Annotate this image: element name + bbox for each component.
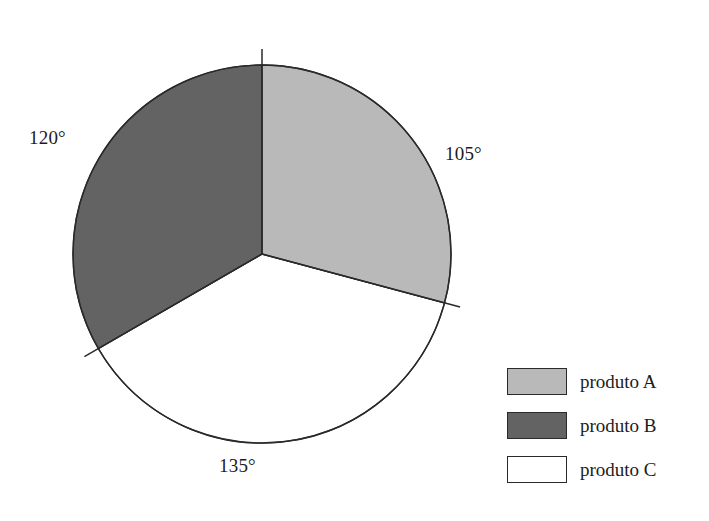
angle-label-produto-a: 105° — [445, 143, 482, 165]
legend-item-produto-b[interactable]: produto B — [507, 410, 697, 440]
legend-label-produto-c: produto C — [580, 460, 657, 479]
legend-swatch-produto-b — [507, 412, 567, 439]
angle-label-produto-c: 135° — [219, 455, 256, 477]
legend-swatch-produto-a — [507, 368, 567, 395]
legend-label-produto-b: produto B — [580, 416, 657, 435]
legend-item-produto-c[interactable]: produto C — [507, 454, 697, 484]
pie-chart-figure: 105° 120° 135° produto A produto B produ… — [0, 0, 709, 521]
legend-item-produto-a[interactable]: produto A — [507, 366, 697, 396]
chart-legend: produto A produto B produto C — [507, 366, 697, 484]
legend-label-produto-a: produto A — [580, 372, 657, 391]
angle-label-produto-b: 120° — [29, 127, 66, 149]
legend-swatch-produto-c — [507, 456, 567, 483]
